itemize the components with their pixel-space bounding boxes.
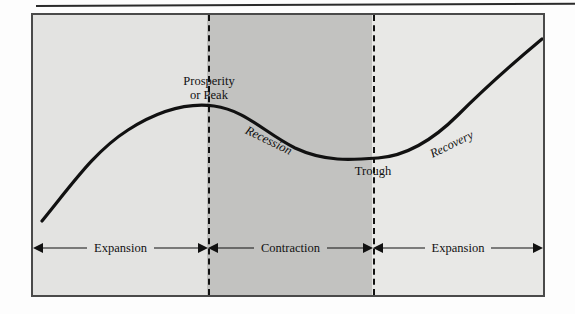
arrow-left-icon	[33, 243, 43, 253]
phase-expansion-left: Expansion	[33, 237, 208, 259]
phase-arrow-row: Expansion Contraction Expansion	[33, 237, 543, 259]
page-top-rule	[36, 3, 575, 7]
figure-page: Prosperity or Peak Recession Trough Reco…	[0, 0, 575, 314]
arrow-left-icon	[373, 243, 383, 253]
label-prosperity-line2: or Peak	[190, 88, 228, 102]
label-trough: Trough	[339, 165, 407, 179]
diagram-frame: Prosperity or Peak Recession Trough Reco…	[31, 13, 545, 297]
phase-label-expansion-left: Expansion	[87, 241, 154, 256]
arrow-right-icon	[363, 243, 373, 253]
phase-label-contraction: Contraction	[254, 241, 327, 256]
arrow-left-icon	[208, 243, 218, 253]
phase-contraction: Contraction	[208, 237, 373, 259]
arrow-right-icon	[198, 243, 208, 253]
label-prosperity-line1: Prosperity	[183, 74, 234, 88]
phase-label-expansion-right: Expansion	[425, 241, 492, 256]
arrow-right-icon	[533, 243, 543, 253]
phase-expansion-right: Expansion	[373, 237, 543, 259]
label-prosperity-peak: Prosperity or Peak	[173, 75, 245, 102]
